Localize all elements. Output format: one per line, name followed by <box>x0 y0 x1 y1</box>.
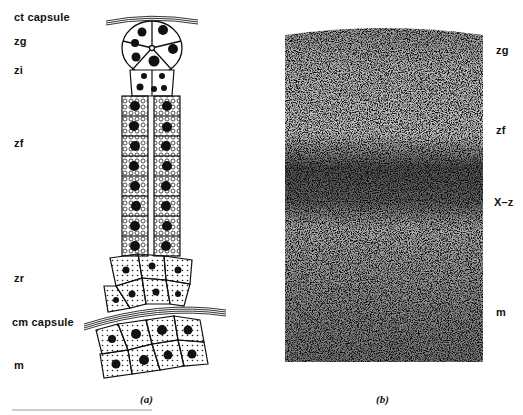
label-cm-capsule: cm capsule <box>12 316 74 328</box>
cropped-figure-caption-line <box>12 409 152 411</box>
label-zg-b: zg <box>496 44 509 56</box>
caption-a: (a) <box>140 393 153 405</box>
label-m-b: m <box>496 306 506 318</box>
zona-reticularis <box>104 254 192 312</box>
caption-b: (b) <box>376 393 389 405</box>
label-xz-b: X–z <box>494 196 514 208</box>
zona-fasciculata-columns <box>122 96 180 256</box>
label-m-a: m <box>14 359 24 371</box>
zona-intermedia <box>130 70 174 96</box>
medulla-cells <box>96 316 208 378</box>
label-zi-a: zi <box>14 64 23 76</box>
micrograph <box>285 27 483 362</box>
label-zf-a: zf <box>14 137 24 149</box>
label-ct-capsule: ct capsule <box>14 11 70 23</box>
label-zf-b: zf <box>496 124 506 136</box>
label-zr-a: zr <box>14 272 24 284</box>
cell-column-illustration <box>80 8 240 380</box>
label-zg-a: zg <box>14 35 27 47</box>
